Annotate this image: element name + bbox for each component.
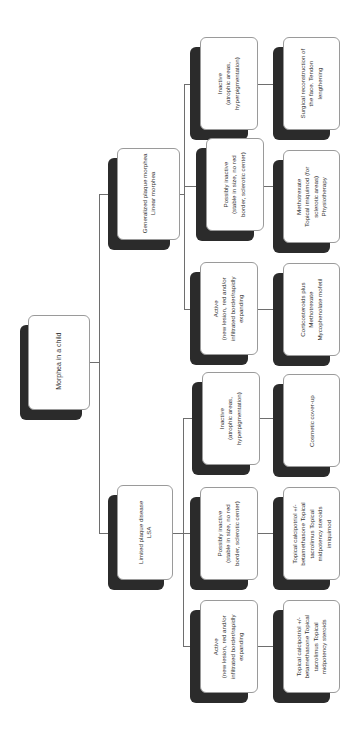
node-box: Limited plaque disease LSA (117, 485, 173, 580)
node-g-active: Active (new lesion, red and/or infiltrat… (190, 262, 260, 365)
flowchart-diagram: Morphea in a child Generalized plaque mo… (0, 0, 364, 755)
node-box: Topical calcipotriol +/- betamethasone T… (283, 487, 340, 580)
node-root: Morphea in a child (20, 315, 92, 420)
node-label: Inactive (atrophic areas, hyperpigmentat… (216, 40, 241, 126)
node-g-possibly-inactive-treatment: Methotrexate Topical imiquimod (for scle… (273, 150, 343, 253)
connector-limited-spine (183, 418, 184, 646)
node-g-possibly-inactive: Possibly inactive (stable in size, no re… (196, 138, 266, 241)
treatment-label: Cosmetic cover-up (307, 378, 315, 464)
treatment-label: Surgical reconstruction of the face. Ten… (299, 40, 324, 126)
treatment-label: Topical calcipotriol +/- betamethasone T… (295, 603, 329, 689)
node-box: Possibly inactive (stable in size, no re… (200, 487, 258, 580)
connector-generalized-spine (184, 84, 185, 310)
node-label-generalized: Generalized plaque morphea Linear morphe… (140, 150, 157, 236)
connector-level1-spine (99, 194, 100, 534)
node-box: Active (new lesion, red and/or infiltrat… (200, 262, 258, 355)
node-g-inactive: Inactive (atrophic areas, hyperpigmentat… (190, 37, 260, 140)
node-label: Inactive (atrophic areas, hyperpigmentat… (218, 375, 243, 461)
node-l-inactive: Inactive (atrophic areas, hyperpigmentat… (192, 372, 262, 475)
treatment-label: Methotrexate Topical imiquimod (for scle… (295, 153, 329, 239)
node-box: Morphea in a child (28, 315, 90, 410)
node-limited: Limited plaque disease LSA (108, 485, 176, 590)
node-generalized: Generalized plaque morphea Linear morphe… (108, 148, 182, 250)
node-box: Generalized plaque morphea Linear morphe… (117, 148, 180, 240)
node-label: Active (new lesion, red and/or infiltrat… (212, 603, 246, 689)
node-box: Inactive (atrophic areas, hyperpigmentat… (200, 37, 258, 130)
node-l-inactive-treatment: Cosmetic cover-up (273, 374, 343, 477)
node-box: Active (new lesion, red and/or infiltrat… (200, 600, 258, 693)
node-box: Methotrexate Topical imiquimod (for scle… (283, 150, 340, 243)
node-box: Cosmetic cover-up (283, 374, 340, 467)
node-l-possibly-inactive: Possibly inactive (stable in size, no re… (190, 487, 260, 590)
node-box: Surgical reconstruction of the face. Ten… (283, 37, 340, 130)
treatment-label: Corticosteroids plus Methotrexate Mycoph… (299, 266, 324, 352)
node-label: Possibly inactive (stable in size, no re… (222, 141, 247, 227)
node-l-possibly-inactive-treatment: Topical calcipotriol +/- betamethasone T… (273, 487, 343, 590)
node-box: Corticosteroids plus Methotrexate Mycoph… (283, 263, 340, 356)
node-box: Inactive (atrophic areas, hyperpigmentat… (202, 372, 260, 465)
node-l-active-treatment: Topical calcipotriol +/- betamethasone T… (273, 600, 343, 703)
node-box: Topical calcipotriol +/- betamethasone T… (283, 600, 340, 693)
node-g-active-treatment: Corticosteroids plus Methotrexate Mycoph… (273, 263, 343, 366)
node-label-limited: Limited plaque disease LSA (137, 489, 154, 575)
node-label: Active (new lesion, red and/or infiltrat… (212, 265, 246, 351)
treatment-label: Topical calcipotriol +/- betamethasone T… (290, 491, 332, 577)
node-l-active: Active (new lesion, red and/or infiltrat… (190, 600, 260, 703)
node-label-root: Morphea in a child (55, 316, 63, 406)
node-box: Possibly inactive (stable in size, no re… (206, 138, 264, 231)
node-g-inactive-treatment: Surgical reconstruction of the face. Ten… (273, 37, 343, 140)
node-label: Possibly inactive (stable in size, no re… (216, 490, 241, 576)
